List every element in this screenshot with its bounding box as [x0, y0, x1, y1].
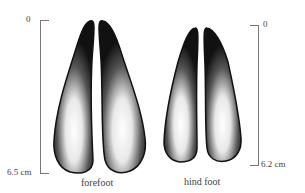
forefoot-caption: forefoot — [81, 177, 113, 188]
forefoot-left-toe — [54, 21, 94, 173]
forefoot-scale-top-label: 0 — [26, 14, 31, 24]
hindfoot-scale-tick-bottom — [250, 165, 259, 166]
forefoot-scale-tick-bottom — [40, 173, 49, 174]
hindfoot-scale-bottom-label: 6.2 cm — [261, 159, 286, 169]
hindfoot-scale-tick-top — [250, 25, 259, 26]
hindfoot-caption: hind foot — [184, 176, 220, 187]
forefoot-scale-bar — [40, 20, 41, 174]
track-illustration — [0, 0, 305, 193]
hindfoot-left-toe — [164, 28, 198, 162]
hindfoot-scale-top-label: 0 — [263, 19, 268, 29]
forefoot-right-toe — [99, 21, 145, 173]
forefoot-scale-bottom-label: 6.5 cm — [7, 167, 32, 177]
hindfoot-right-toe — [204, 28, 241, 161]
hindfoot-scale-bar — [258, 25, 259, 166]
forefoot-scale-tick-top — [40, 20, 49, 21]
